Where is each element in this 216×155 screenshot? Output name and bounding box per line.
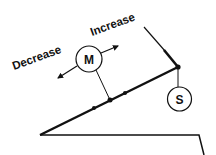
decrease-arrow-icon xyxy=(58,66,77,78)
lever-diagram: S M Increase Decrease xyxy=(0,0,216,155)
beam-node-3 xyxy=(123,91,127,95)
upper-arm-thick xyxy=(164,50,178,67)
sensor: S xyxy=(168,87,192,111)
upper-arm-thin xyxy=(144,27,165,51)
increase-label: Increase xyxy=(89,11,137,38)
motor: M xyxy=(76,46,102,72)
motor-link xyxy=(96,70,110,100)
base-line xyxy=(40,135,204,155)
sensor-symbol: S xyxy=(175,93,183,107)
beam-node-1 xyxy=(92,106,96,110)
beam-node-2 xyxy=(108,98,113,103)
increase-arrow-icon xyxy=(101,46,118,53)
decrease-label: Decrease xyxy=(11,43,63,72)
motor-symbol: M xyxy=(84,53,94,67)
